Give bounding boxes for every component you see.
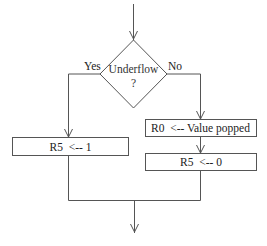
process-box-r5-set-0: R5 <-- 0 — [145, 153, 257, 171]
yes-branch-line — [69, 74, 101, 137]
yes-label: Yes — [84, 61, 101, 73]
decision-label: Underflow — [100, 63, 167, 77]
process-box-r5-set-1: R5 <-- 1 — [12, 137, 129, 156]
process-box-r0-value-popped: R0 <-- Value popped — [145, 119, 257, 137]
no-label: No — [168, 61, 182, 73]
decision-text: Underflow ? — [100, 63, 167, 91]
no-branch-line — [167, 74, 201, 119]
decision-sublabel: ? — [100, 77, 167, 91]
